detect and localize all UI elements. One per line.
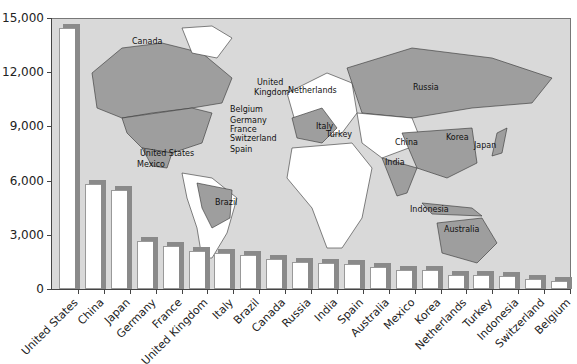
x-tick-mark [156, 289, 157, 294]
bar-india [318, 263, 335, 289]
map-label: India [385, 158, 405, 167]
bar-canada [266, 259, 283, 289]
x-tick-mark [415, 289, 416, 294]
bar-russia [292, 262, 309, 289]
x-tick-mark [544, 289, 545, 294]
map-label: Indonesia [410, 205, 449, 214]
bar-spain [344, 264, 361, 289]
bar-australia [370, 267, 387, 289]
bar-korea [422, 270, 439, 289]
x-tick-mark [363, 289, 364, 294]
x-tick-mark [389, 289, 390, 294]
bar-netherlands [448, 275, 465, 289]
map-label: United States [140, 149, 194, 158]
y-tick-mark [47, 72, 52, 73]
y-tick-label: 9,000 [0, 119, 44, 133]
x-tick-mark [518, 289, 519, 294]
map-label: Russia [413, 83, 439, 92]
map-label: Canada [132, 37, 162, 46]
y-tick-label: 3,000 [0, 228, 44, 242]
map-label: Japan [474, 141, 496, 150]
y-tick-label: 0 [0, 282, 44, 296]
map-label: United [257, 78, 283, 87]
bar-italy [214, 253, 231, 289]
bar-united-kingdom [189, 251, 206, 289]
x-tick-mark [492, 289, 493, 294]
x-tick-mark [233, 289, 234, 294]
x-tick-label: India [311, 296, 339, 324]
x-tick-mark [441, 289, 442, 294]
x-tick-mark [285, 289, 286, 294]
x-tick-mark [207, 289, 208, 294]
bar-china [85, 184, 102, 289]
map-label: Brazil [215, 198, 237, 207]
map-label: Switzerland [230, 134, 277, 143]
map-label: Korea [446, 133, 469, 142]
map-label: China [395, 138, 418, 147]
x-tick-mark [466, 289, 467, 294]
map-label: Mexico [137, 160, 165, 169]
map-label: Spain [230, 145, 252, 154]
map-africa [287, 143, 372, 248]
map-label: Kingdom [254, 88, 289, 97]
y-axis [51, 18, 52, 290]
bar-germany [137, 241, 154, 289]
map-label: Turkey [326, 130, 352, 139]
x-tick-mark [337, 289, 338, 294]
x-tick-mark [570, 289, 571, 294]
y-tick-mark [47, 18, 52, 19]
bar-france [163, 246, 180, 289]
bar-switzerland [525, 279, 542, 289]
map-label: Belgium [230, 105, 263, 114]
y-tick-mark [47, 235, 52, 236]
bar-japan [111, 190, 128, 289]
bar-indonesia [499, 276, 516, 289]
map-label: France [230, 125, 257, 134]
map-label: Australia [444, 225, 479, 234]
bar-mexico [396, 270, 413, 289]
map-label: Netherlands [288, 86, 337, 95]
y-tick-label: 12,000 [0, 65, 44, 79]
x-tick-mark [311, 289, 312, 294]
x-tick-mark [104, 289, 105, 294]
x-tick-mark [130, 289, 131, 294]
y-tick-label: 6,000 [0, 174, 44, 188]
bar-turkey [473, 275, 490, 289]
y-tick-mark [47, 126, 52, 127]
bar-belgium [551, 281, 568, 289]
map-russia [347, 48, 552, 118]
y-tick-mark [47, 289, 52, 290]
x-tick-mark [78, 289, 79, 294]
x-tick-mark [259, 289, 260, 294]
bar-brazil [240, 255, 257, 289]
y-tick-mark [47, 181, 52, 182]
x-tick-mark [182, 289, 183, 294]
map-label: Germany [230, 116, 267, 125]
bar-united-states [59, 28, 76, 289]
y-tick-label: 15,000 [0, 11, 44, 25]
x-tick-label: United States [19, 296, 81, 358]
x-tick-label: China [75, 296, 106, 327]
